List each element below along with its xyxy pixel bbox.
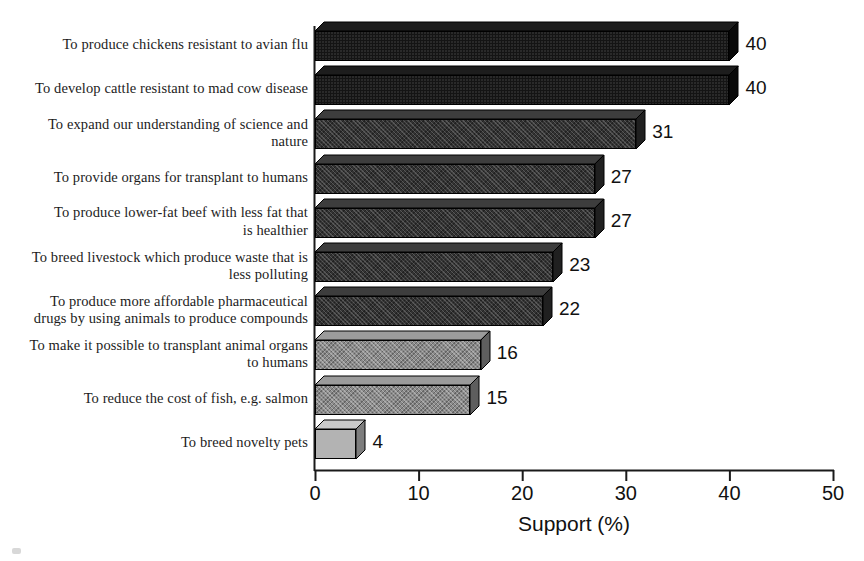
bar-value-label: 27	[611, 210, 632, 232]
bar-side-face	[595, 199, 606, 240]
bar-value-label: 27	[611, 166, 632, 188]
bar-front-face	[315, 75, 729, 105]
plot-area: 4040312727232216154 01020304050 Support …	[0, 0, 864, 561]
bar-front-face	[315, 208, 595, 238]
x-tick-label: 40	[718, 482, 740, 505]
bar-chart: To produce chickens resistant to avian f…	[0, 0, 864, 561]
bar-side-face	[636, 110, 647, 151]
bar-value-label: 15	[486, 387, 507, 409]
bar	[315, 376, 479, 415]
bar-side-face	[481, 331, 492, 372]
bar-value-label: 22	[559, 298, 580, 320]
bar-value-label: 31	[652, 121, 673, 143]
bar	[315, 199, 604, 238]
x-axis-title: Support (%)	[518, 512, 630, 536]
bar	[315, 287, 552, 326]
bar	[315, 66, 738, 105]
bar	[315, 110, 645, 149]
bar-side-face	[543, 287, 554, 328]
x-tick-label: 50	[822, 482, 844, 505]
bar-value-label: 4	[372, 431, 383, 453]
bar-front-face	[315, 340, 481, 370]
bar	[315, 420, 365, 459]
bar-side-face	[729, 22, 740, 63]
bar-front-face	[315, 429, 356, 459]
bar	[315, 243, 562, 282]
bar-front-face	[315, 119, 636, 149]
bar	[315, 155, 604, 194]
scan-artifact	[12, 548, 21, 554]
bar-front-face	[315, 164, 595, 194]
bar-value-label: 40	[745, 33, 766, 55]
bar-side-face	[356, 420, 367, 461]
bar-value-label: 40	[745, 77, 766, 99]
bar-value-label: 23	[569, 254, 590, 276]
bar	[315, 331, 490, 370]
x-tick-label: 10	[407, 482, 429, 505]
bar-front-face	[315, 296, 543, 326]
bar-front-face	[315, 31, 729, 61]
x-tick-label: 20	[511, 482, 533, 505]
x-tick-label: 30	[615, 482, 637, 505]
bar-front-face	[315, 385, 470, 415]
x-tick-label: 0	[309, 482, 320, 505]
bar-value-label: 16	[497, 342, 518, 364]
bar-side-face	[595, 155, 606, 196]
bar-front-face	[315, 252, 553, 282]
bar-side-face	[470, 376, 481, 417]
bar-side-face	[729, 66, 740, 107]
bar	[315, 22, 738, 61]
bar-side-face	[553, 243, 564, 284]
